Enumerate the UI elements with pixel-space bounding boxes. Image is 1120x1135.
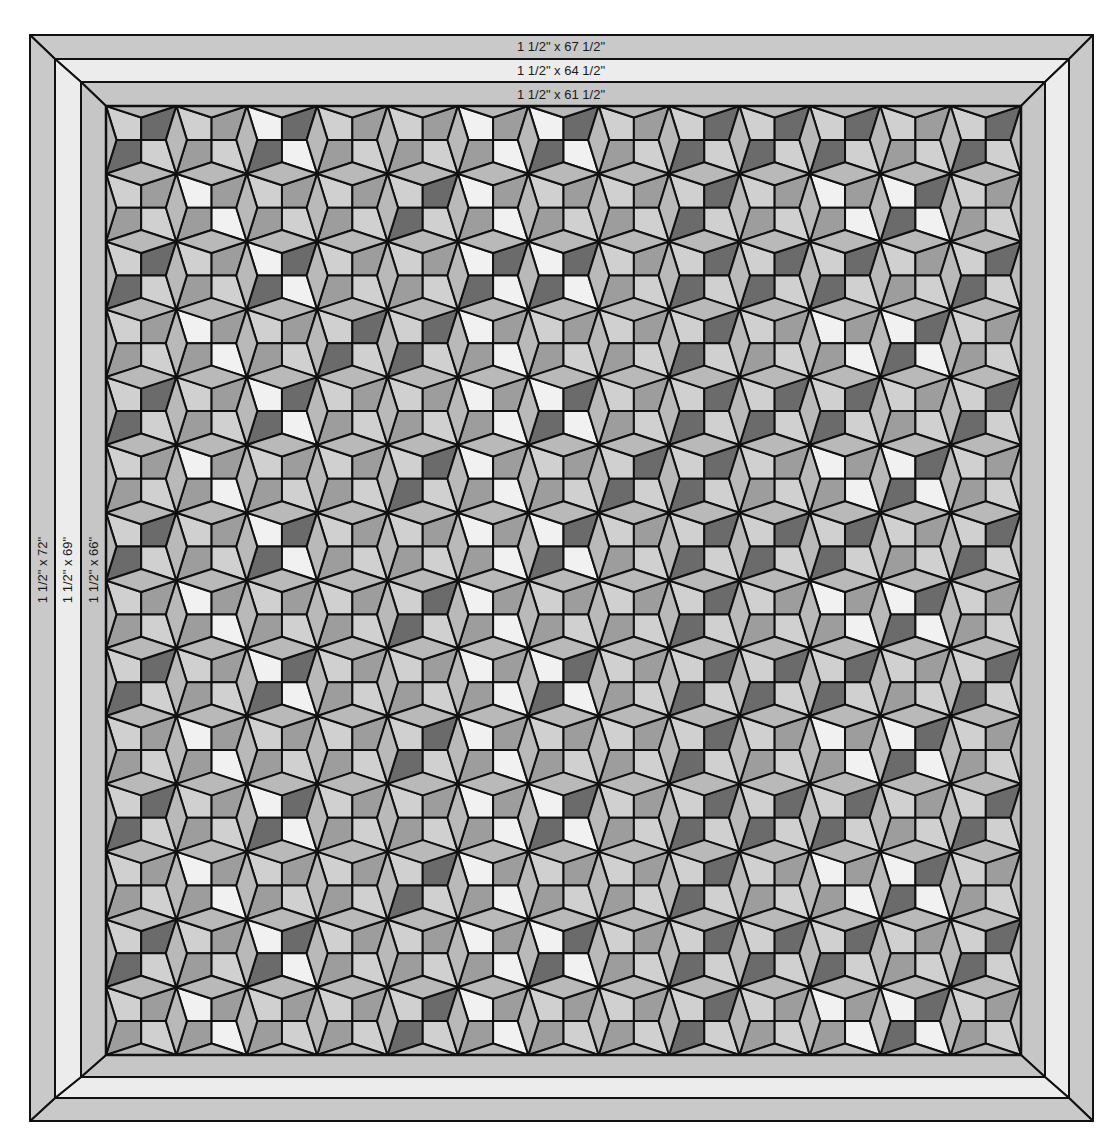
outer-border-top-label: 1 1/2" x 67 1/2" (517, 39, 605, 54)
inner-border-side-label: 1 1/2" x 66" (86, 536, 101, 603)
inner-border-top-label: 1 1/2" x 61 1/2" (517, 87, 605, 102)
outer-border-bottom (30, 1098, 1093, 1121)
middle-border-bottom (55, 1077, 1069, 1098)
inner-border-bottom (81, 1055, 1045, 1077)
inner-border-right (1021, 82, 1045, 1077)
outer-border-right (1069, 35, 1093, 1121)
quilt-center (96, 95, 1032, 1067)
middle-border-right (1045, 59, 1069, 1098)
outer-border-side-label: 1 1/2" x 72" (35, 536, 50, 603)
middle-border-side-label: 1 1/2" x 69" (60, 536, 75, 603)
quilt-diagram: 1 1/2" x 67 1/2" 1 1/2" x 64 1/2" 1 1/2"… (0, 0, 1120, 1135)
block-grid (96, 95, 1032, 1067)
middle-border-top-label: 1 1/2" x 64 1/2" (517, 63, 605, 78)
